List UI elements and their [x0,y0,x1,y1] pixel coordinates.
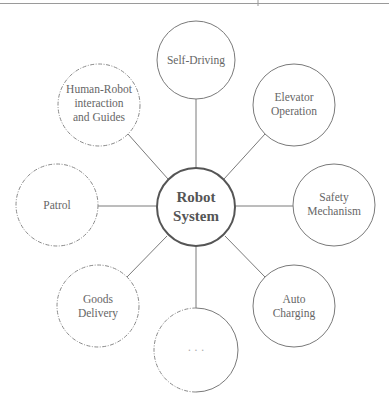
node-label: Delivery [78,307,118,320]
node-label: Safety [319,191,349,204]
node-label: and Guides [73,111,126,123]
node-label: Charging [273,307,316,320]
connector-auto-charging [225,236,265,277]
node-label: Operation [271,105,317,118]
node-label: Mechanism [307,205,361,217]
node-label: Human-Robot [66,83,133,95]
node-more: · · · [154,308,238,392]
node-label: Patrol [43,199,70,211]
node-elevator-operation: Elevator Operation [253,64,335,146]
node-safety-mechanism: Safety Mechanism [293,164,375,246]
connector-goods-delivery [127,236,167,277]
connector-human-robot [128,134,168,179]
node-patrol: Patrol [16,164,98,246]
node-auto-charging: Auto Charging [253,265,335,347]
node-label: · · · [187,344,204,356]
robot-system-diagram: Self-Driving Elevator Operation Safety M… [0,0,389,404]
center-label: System [173,208,219,224]
node-self-driving: Self-Driving [157,21,235,99]
node-label: interaction [74,97,123,109]
node-label: Auto [283,293,306,305]
node-human-robot: Human-Robot interaction and Guides [58,64,140,146]
node-label: Self-Driving [167,54,225,67]
node-center-robot-system: Robot System [157,168,235,246]
node-label: Goods [83,293,114,305]
node-goods-delivery: Goods Delivery [57,265,139,347]
center-label: Robot [176,189,215,205]
node-label: Elevator [275,91,314,103]
connector-elevator-operation [224,134,265,179]
